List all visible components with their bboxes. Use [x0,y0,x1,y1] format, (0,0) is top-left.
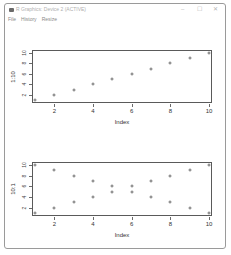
y-axis-tick [29,74,32,75]
y-axis-tick [29,197,32,198]
data-point [92,83,95,86]
data-point [208,212,211,215]
data-point [53,169,56,172]
data-point [208,164,211,167]
x-tick-label: 2 [53,108,56,114]
x-axis-label: Index [115,119,130,125]
data-point [169,174,172,177]
y-axis-tick [29,186,32,187]
y-axis-tick [29,63,32,64]
x-axis-tick [209,104,210,107]
data-point [169,201,172,204]
data-point [34,212,37,215]
x-axis-tick [54,104,55,107]
data-point [72,201,75,204]
data-point [34,99,37,102]
y-tick-label: 6 [21,185,27,188]
y-axis-tick [29,84,32,85]
y-tick-label: 8 [21,174,27,177]
x-tick-label: 4 [91,108,94,114]
data-point [150,180,153,183]
menu-file[interactable]: File [8,16,16,24]
data-point [72,174,75,177]
x-axis-tick [170,217,171,220]
y-tick-label: 4 [21,83,27,86]
minimize-button[interactable]: – [181,5,184,13]
data-point [150,196,153,199]
y-tick-label: 2 [21,206,27,209]
y-axis-tick [29,176,32,177]
data-point [188,169,191,172]
window-title: R Graphics: Device 2 (ACTIVE) [16,6,86,12]
data-point [92,196,95,199]
menu-history[interactable]: History [21,16,37,24]
data-point [53,93,56,96]
x-tick-label: 6 [130,108,133,114]
maximize-button[interactable]: ☐ [197,5,202,13]
x-axis-tick [93,217,94,220]
data-point [111,185,114,188]
x-tick-label: 10 [206,108,213,114]
data-point [150,67,153,70]
y-tick-label: 10 [21,162,27,168]
data-point [130,190,133,193]
y-tick-label: 2 [21,93,27,96]
x-axis-label: Index [115,232,130,238]
data-point [111,190,114,193]
x-axis-tick [209,217,210,220]
data-point [130,185,133,188]
plot-frame [32,162,212,216]
data-point [53,206,56,209]
data-point [188,57,191,60]
data-point [72,88,75,91]
data-point [92,180,95,183]
x-tick-label: 10 [206,221,213,227]
x-tick-label: 8 [169,221,172,227]
data-point [34,164,37,167]
y-axis-label: 1:10 [10,71,16,83]
y-axis-label: 10:1 [10,183,16,195]
x-tick-label: 4 [91,221,94,227]
plot-frame [32,50,212,103]
title-bar: R Graphics: Device 2 (ACTIVE) – ☐ ✕ [5,4,225,16]
y-axis-tick [29,165,32,166]
data-point [130,72,133,75]
y-axis-tick [29,208,32,209]
x-tick-label: 6 [130,221,133,227]
y-tick-label: 4 [21,196,27,199]
data-point [208,52,211,55]
y-tick-label: 6 [21,72,27,75]
x-tick-label: 2 [53,221,56,227]
r-app-icon [9,8,14,12]
x-axis-tick [170,104,171,107]
data-point [111,78,114,81]
menu-resize[interactable]: Resize [42,16,57,24]
y-tick-label: 10 [21,50,27,56]
data-point [169,62,172,65]
data-point [188,206,191,209]
x-tick-label: 8 [169,108,172,114]
x-axis-tick [132,217,133,220]
y-axis-tick [29,53,32,54]
x-axis-tick [132,104,133,107]
y-axis-tick [29,95,32,96]
close-button[interactable]: ✕ [213,5,218,13]
x-axis-tick [93,104,94,107]
menu-bar: File History Resize [8,16,57,24]
x-axis-tick [54,217,55,220]
